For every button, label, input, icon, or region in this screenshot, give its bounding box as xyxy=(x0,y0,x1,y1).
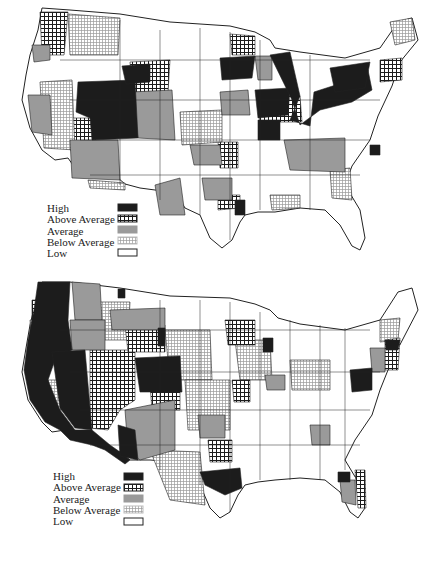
top-map: High Above Average Average Below Average… xyxy=(0,0,443,280)
bottom-map: High Above Average Average Below Average… xyxy=(0,280,443,562)
